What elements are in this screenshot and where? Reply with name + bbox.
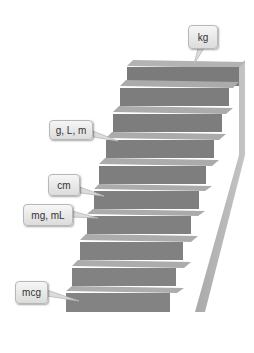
- label-g-l-m: g, L, m: [49, 120, 93, 140]
- label-mg-ml-text: mg, mL: [31, 210, 64, 221]
- label-g-l-m-text: g, L, m: [56, 125, 87, 136]
- steps: [66, 60, 245, 312]
- label-mcg-text: mcg: [22, 287, 41, 298]
- label-cm-text: cm: [57, 180, 70, 191]
- label-kg-text: kg: [198, 32, 209, 43]
- label-cm: cm: [48, 174, 80, 196]
- label-kg: kg: [188, 25, 218, 49]
- label-mcg: mcg: [15, 281, 48, 304]
- label-mg-ml: mg, mL: [23, 204, 73, 226]
